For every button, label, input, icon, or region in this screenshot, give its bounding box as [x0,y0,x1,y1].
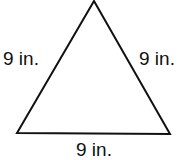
right-side-label: 9 in. [139,48,175,69]
left-side-label: 9 in. [3,48,39,69]
triangle-diagram: 9 in. 9 in. 9 in. [0,0,191,160]
bottom-side-label: 9 in. [76,139,112,160]
